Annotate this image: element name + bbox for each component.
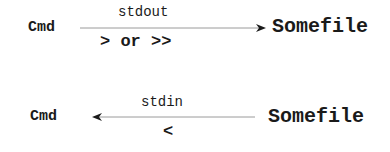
somefile-node: Somefile — [272, 15, 368, 38]
stdout-operator: > or >> — [100, 32, 171, 51]
stdin-operator: < — [163, 122, 173, 141]
stdout-label: stdout — [118, 4, 168, 20]
cmd-node: Cmd — [28, 19, 55, 36]
cmd-node: Cmd — [30, 108, 57, 125]
stdin-label: stdin — [141, 94, 183, 110]
somefile-node: Somefile — [268, 105, 364, 128]
left-arrow-icon — [92, 111, 262, 123]
